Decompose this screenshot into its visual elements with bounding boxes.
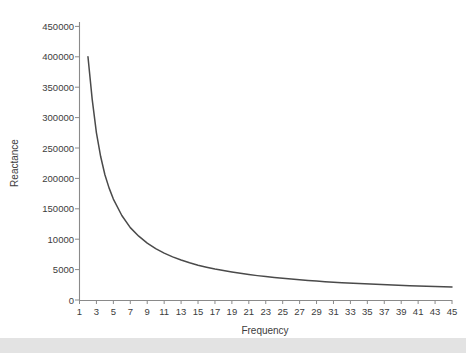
x-tick-label: 43 — [430, 306, 441, 317]
y-axis-tick-marks — [75, 26, 79, 300]
x-tick-label: 25 — [277, 306, 288, 317]
x-tick-label: 45 — [447, 306, 458, 317]
x-tick-label: 31 — [328, 306, 339, 317]
y-tick-label: 10000 — [48, 234, 74, 245]
y-tick-label: 150000 — [42, 203, 74, 214]
x-tick-label: 3 — [94, 306, 99, 317]
reactance-vs-frequency-chart: 0 5000 10000 150000 200000 250000 300000… — [0, 0, 466, 353]
x-tick-label: 41 — [413, 306, 424, 317]
y-tick-label: 450000 — [42, 21, 74, 32]
y-tick-label: 300000 — [42, 112, 74, 123]
x-tick-label: 15 — [193, 306, 204, 317]
x-tick-label: 23 — [260, 306, 271, 317]
x-tick-label: 29 — [311, 306, 322, 317]
y-tick-label: 250000 — [42, 143, 74, 154]
reactance-curve — [88, 57, 452, 287]
y-tick-label: 350000 — [42, 82, 74, 93]
y-axis-tick-labels: 0 5000 10000 150000 200000 250000 300000… — [42, 21, 74, 306]
x-axis-title: Frequency — [241, 325, 288, 336]
x-tick-label: 39 — [396, 306, 407, 317]
bottom-status-band — [0, 338, 466, 353]
x-tick-label: 37 — [379, 306, 390, 317]
x-tick-label: 11 — [159, 306, 169, 317]
x-tick-label: 35 — [362, 306, 373, 317]
x-tick-label: 21 — [244, 306, 255, 317]
y-tick-label: 200000 — [42, 173, 74, 184]
y-tick-label: 400000 — [42, 51, 74, 62]
y-tick-label: 5000 — [53, 264, 74, 275]
x-tick-label: 19 — [227, 306, 238, 317]
x-tick-label: 17 — [210, 306, 221, 317]
x-tick-label: 1 — [77, 306, 82, 317]
x-tick-label: 7 — [128, 306, 133, 317]
x-tick-label: 13 — [176, 306, 187, 317]
x-axis-tick-labels: 1357911131517192123252729313335373941434… — [77, 306, 457, 317]
x-tick-label: 5 — [111, 306, 116, 317]
y-tick-label: 0 — [69, 295, 74, 306]
y-axis-title: Reactance — [9, 139, 20, 187]
x-tick-label: 33 — [345, 306, 356, 317]
chart-canvas: 0 5000 10000 150000 200000 250000 300000… — [0, 0, 466, 353]
x-tick-label: 9 — [145, 306, 150, 317]
x-tick-label: 27 — [294, 306, 305, 317]
